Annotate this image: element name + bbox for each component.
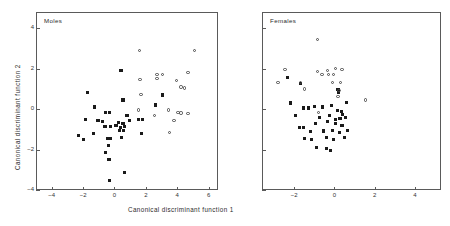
data-point-open-circle: [167, 108, 170, 111]
data-point-filled-square: [92, 132, 95, 135]
data-point-filled-square: [326, 120, 329, 123]
data-point-filled-square: [329, 149, 332, 152]
data-point-open-circle: [168, 131, 171, 134]
y-tick: [262, 150, 266, 151]
data-point-filled-square: [122, 129, 125, 132]
data-point-filled-square: [82, 138, 85, 141]
data-point-filled-square: [336, 109, 339, 112]
x-tick-label: −2: [73, 192, 93, 198]
data-point-open-circle: [320, 73, 323, 76]
data-point-filled-square: [302, 106, 305, 109]
data-point-filled-square: [310, 138, 313, 141]
data-point-filled-square: [325, 136, 328, 139]
data-point-filled-square: [303, 137, 306, 140]
x-tick-label: 0: [104, 192, 124, 198]
data-point-filled-square: [338, 131, 341, 134]
data-point-filled-square: [141, 118, 144, 121]
x-tick: [375, 187, 376, 191]
data-point-filled-square: [340, 124, 343, 127]
data-point-open-circle: [303, 87, 306, 90]
y-tick-label: 2: [22, 65, 34, 71]
x-axis-label: Canonical discriminant function 1: [128, 206, 234, 213]
data-point-filled-square: [322, 129, 325, 132]
data-point-filled-square: [118, 129, 121, 132]
data-point-filled-square: [77, 134, 80, 137]
data-point-open-circle: [340, 68, 343, 71]
data-point-filled-square: [334, 118, 337, 121]
data-point-filled-square: [318, 116, 321, 119]
data-point-filled-square: [121, 98, 124, 101]
data-point-filled-square: [314, 122, 317, 125]
data-point-filled-square: [315, 146, 318, 149]
data-point-filled-square: [108, 111, 111, 114]
data-point-filled-square: [108, 179, 111, 182]
y-tick: [36, 150, 40, 151]
x-tick: [294, 187, 295, 191]
data-point-filled-square: [104, 111, 107, 114]
data-point-filled-square: [344, 116, 347, 119]
data-point-filled-square: [101, 120, 104, 123]
x-tick-label: −2: [284, 192, 304, 198]
data-point-filled-square: [128, 119, 131, 122]
data-point-filled-square: [343, 136, 346, 139]
data-point-open-circle: [336, 95, 339, 98]
data-point-filled-square: [302, 126, 305, 129]
x-tick-label: 4: [167, 192, 187, 198]
x-tick: [83, 187, 84, 191]
y-tick: [262, 28, 266, 29]
x-tick: [334, 187, 335, 191]
data-point-open-circle: [364, 98, 367, 101]
data-point-filled-square: [332, 138, 335, 141]
y-tick: [262, 190, 266, 191]
data-point-filled-square: [309, 130, 312, 133]
data-point-filled-square: [289, 101, 292, 104]
x-tick: [52, 187, 53, 191]
x-tick-label: 2: [365, 192, 385, 198]
data-point-open-circle: [299, 81, 302, 84]
x-tick: [114, 187, 115, 191]
data-point-filled-square: [346, 129, 349, 132]
x-tick-label: 4: [405, 192, 425, 198]
data-point-filled-square: [298, 126, 301, 129]
data-point-filled-square: [161, 93, 164, 96]
x-tick-label: −4: [42, 192, 62, 198]
x-tick: [415, 187, 416, 191]
x-tick: [209, 187, 210, 191]
x-tick: [146, 187, 147, 191]
data-point-filled-square: [123, 125, 126, 128]
y-tick-label: −2: [22, 146, 34, 152]
figure-container: Moles −4−20246−4−2024 Females −2024 Cano…: [0, 0, 450, 226]
y-tick: [36, 28, 40, 29]
data-point-open-circle: [186, 112, 189, 115]
data-point-filled-square: [107, 158, 110, 161]
data-point-open-circle: [155, 73, 158, 76]
data-point-filled-square: [109, 125, 112, 128]
data-point-filled-square: [325, 147, 328, 150]
data-point-filled-square: [114, 124, 117, 127]
data-point-filled-square: [119, 69, 122, 72]
data-point-filled-square: [93, 105, 96, 108]
y-tick: [262, 109, 266, 110]
data-point-filled-square: [107, 144, 110, 147]
data-point-open-circle: [139, 93, 142, 96]
data-point-filled-square: [286, 76, 289, 79]
data-point-filled-square: [313, 105, 316, 108]
y-tick-label: −4: [22, 186, 34, 192]
panel-title-females: Females: [270, 17, 296, 24]
x-tick-label: 2: [136, 192, 156, 198]
panel-females: Females −2024: [262, 12, 441, 190]
data-point-open-circle: [172, 119, 175, 122]
data-point-filled-square: [103, 125, 106, 128]
data-point-filled-square: [330, 104, 333, 107]
data-point-filled-square: [338, 117, 341, 120]
data-point-filled-square: [307, 106, 310, 109]
y-tick: [36, 109, 40, 110]
data-point-filled-square: [123, 171, 126, 174]
data-point-filled-square: [140, 132, 143, 135]
data-point-open-circle: [332, 73, 335, 76]
data-point-filled-square: [331, 129, 334, 132]
data-point-filled-square: [294, 114, 297, 117]
data-point-filled-square: [321, 105, 324, 108]
data-point-filled-square: [104, 151, 107, 154]
y-tick: [36, 69, 40, 70]
